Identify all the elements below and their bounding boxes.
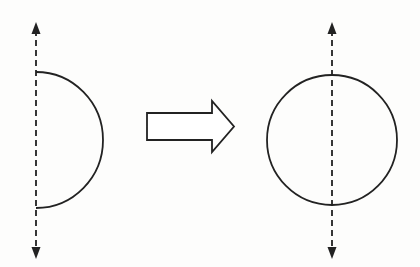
- semicircle-panel: [32, 22, 104, 259]
- transform-arrow: [147, 101, 234, 152]
- left-axis-top-arrowhead-icon: [32, 22, 41, 34]
- right-block-arrow-icon: [147, 101, 234, 152]
- right-axis-bottom-arrowhead-icon: [328, 247, 337, 259]
- semicircle-curve: [36, 72, 103, 208]
- left-axis-bottom-arrowhead-icon: [32, 247, 41, 259]
- circle-panel: [267, 22, 397, 259]
- revolution-diagram: [0, 0, 420, 267]
- right-axis-top-arrowhead-icon: [328, 22, 337, 34]
